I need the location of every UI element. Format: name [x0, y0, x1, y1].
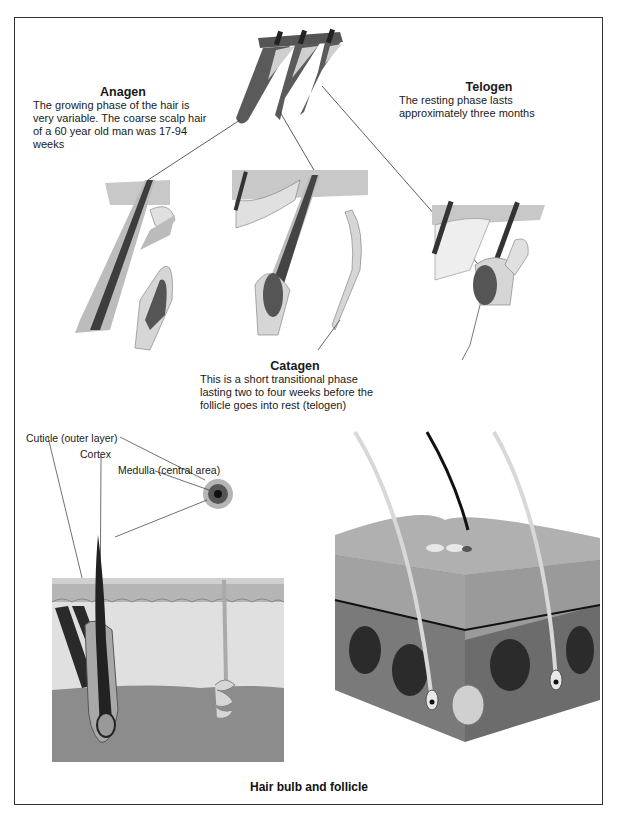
hair-stages-overview [236, 29, 343, 124]
cuticle-label: Cuticle (outer layer) [26, 432, 118, 444]
catagen-title: Catagen [200, 360, 390, 373]
anagen-title: Anagen [33, 86, 213, 99]
telogen-title: Telogen [399, 81, 579, 94]
anagen-label: Anagen The growing phase of the hair is … [33, 86, 213, 151]
anagen-follicle [75, 180, 175, 350]
hair-cross-section [203, 479, 233, 509]
skin-block-3d [335, 432, 600, 742]
cortex-label: Cortex [80, 448, 111, 460]
telogen-follicle [432, 201, 545, 360]
anagen-description: The growing phase of the hair is very va… [33, 99, 213, 151]
diagram-caption: Hair bulb and follicle [0, 780, 618, 794]
skin-section-diagram [52, 535, 284, 762]
catagen-follicle [232, 170, 368, 350]
catagen-label: Catagen This is a short transitional pha… [200, 360, 390, 412]
telogen-description: The resting phase lasts approximately th… [399, 94, 579, 120]
catagen-description: This is a short transitional phase lasti… [200, 373, 390, 412]
telogen-label: Telogen The resting phase lasts approxim… [399, 81, 579, 120]
medulla-label: Medulla (central area) [118, 464, 220, 476]
